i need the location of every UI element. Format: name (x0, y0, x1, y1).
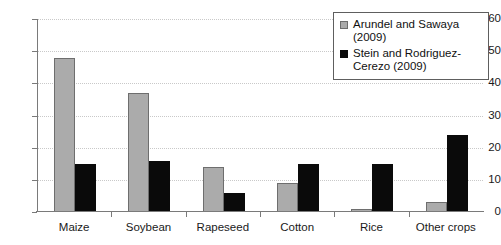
x-axis-tick-mark (260, 211, 261, 217)
legend-item-series-a: Arundel and Sawaya (2009) (340, 18, 481, 44)
x-axis-tick-mark (186, 211, 187, 217)
bar-series-b (75, 164, 96, 212)
bar-series-a (203, 167, 224, 212)
bar-series-b (149, 161, 170, 212)
x-axis-tick-mark (111, 211, 112, 217)
bar-series-b (298, 164, 319, 212)
x-axis-tick-mark (334, 211, 335, 217)
bar-group (261, 19, 335, 212)
x-axis-tick-mark (409, 211, 410, 217)
bar-series-a (128, 93, 149, 212)
x-axis-category-label: Rapeseed (197, 221, 249, 233)
bar-series-b (372, 164, 393, 212)
y-axis-tick-mark (32, 212, 37, 213)
bar-series-a (277, 183, 298, 212)
bar-series-b (224, 193, 245, 212)
x-axis-category-label: Soybean (126, 221, 171, 233)
chart-legend: Arundel and Sawaya (2009) Stein and Rodr… (333, 12, 489, 80)
x-axis-category-label: Other crops (416, 221, 476, 233)
legend-item-series-b: Stein and Rodriguez-Cerezo (2009) (340, 47, 481, 73)
bar-series-b (447, 135, 468, 212)
bar-chart: 0102030405060 MaizeSoybeanRapeseedCotton… (0, 0, 501, 245)
bar-group (187, 19, 261, 212)
bar-group (112, 19, 186, 212)
legend-swatch-icon-series-b (340, 50, 348, 58)
legend-label-series-a: Arundel and Sawaya (2009) (353, 18, 481, 44)
x-axis-category-label: Maize (59, 221, 90, 233)
legend-label-series-b: Stein and Rodriguez-Cerezo (2009) (353, 47, 481, 73)
x-axis-category-label: Cotton (280, 221, 314, 233)
bar-series-a (54, 58, 75, 212)
legend-swatch-icon-series-a (340, 21, 348, 29)
bar-group (38, 19, 112, 212)
x-axis-category-label: Rice (360, 221, 383, 233)
